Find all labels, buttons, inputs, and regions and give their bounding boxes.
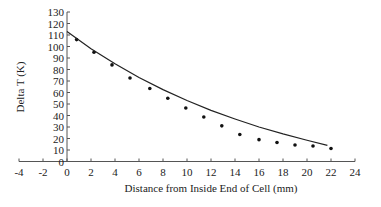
x-tick-label: 18 xyxy=(278,166,290,178)
data-point xyxy=(311,144,315,148)
y-tick-label: 10 xyxy=(53,144,65,156)
y-tick-label: 0 xyxy=(59,156,65,168)
data-point xyxy=(275,141,279,145)
y-tick-label: 110 xyxy=(48,29,65,41)
data-point xyxy=(184,106,188,110)
chart: -4-2024681012141618202224010203040506070… xyxy=(0,0,381,207)
data-point xyxy=(110,63,114,67)
y-tick-label: 90 xyxy=(53,52,65,64)
y-tick-label: 60 xyxy=(53,87,65,99)
x-tick-label: 16 xyxy=(254,166,266,178)
x-tick-label: 14 xyxy=(230,166,242,178)
x-tick-label: 10 xyxy=(182,166,194,178)
x-tick-label: -4 xyxy=(14,166,24,178)
data-point xyxy=(148,87,152,91)
y-tick-label: 80 xyxy=(53,64,65,76)
y-tick-label: 70 xyxy=(53,75,65,87)
x-tick-label: -2 xyxy=(38,166,47,178)
x-tick-label: 2 xyxy=(88,166,94,178)
data-point xyxy=(202,115,206,119)
data-point xyxy=(257,138,261,142)
y-tick-label: 100 xyxy=(48,41,65,53)
y-axis-title: Delta T (K) xyxy=(14,61,27,112)
x-tick-label: 20 xyxy=(302,166,314,178)
plot-area xyxy=(67,32,333,151)
x-tick-label: 6 xyxy=(136,166,142,178)
data-point xyxy=(220,124,224,128)
y-tick-label: 50 xyxy=(53,98,65,110)
x-tick-label: 8 xyxy=(160,166,166,178)
data-point xyxy=(128,76,132,80)
y-tick-label: 40 xyxy=(53,110,65,122)
data-point xyxy=(166,96,170,100)
x-tick-label: 24 xyxy=(350,166,362,178)
x-tick-label: 22 xyxy=(326,166,337,178)
y-tick-label: 20 xyxy=(53,133,65,145)
y-tick-label: 130 xyxy=(48,6,65,18)
data-point xyxy=(293,143,297,147)
data-point xyxy=(238,133,242,137)
x-axis-title: Distance from Inside End of Cell (mm) xyxy=(125,182,298,195)
x-tick-label: 0 xyxy=(64,166,70,178)
x-tick-label: 12 xyxy=(206,166,217,178)
axes: -4-2024681012141618202224010203040506070… xyxy=(14,6,361,178)
y-tick-label: 30 xyxy=(53,121,65,133)
model-curve xyxy=(67,32,327,146)
x-tick-label: 4 xyxy=(112,166,118,178)
data-point xyxy=(329,147,333,151)
y-tick-label: 120 xyxy=(48,18,65,30)
